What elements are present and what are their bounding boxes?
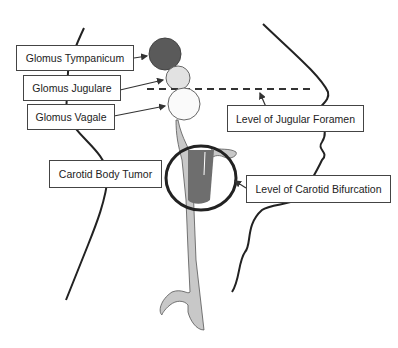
label-level-carotid-bifurcation: Level of Carotid Bifurcation [246,175,391,203]
label-glomus-vagale: Glomus Vagale [27,104,115,130]
diagram-canvas: Glomus Tympanicum Glomus Jugulare Glomus… [0,0,398,348]
glomus-jugulare-circle [166,66,190,90]
label-glomus-tympanicum: Glomus Tympanicum [16,45,134,71]
label-level-jugular-foramen: Level of Jugular Foramen [227,105,364,132]
label-carotid-body-tumor: Carotid Body Tumor [49,160,162,188]
carotid-body-tumor-mass [188,150,214,204]
glomus-tympanicum-circle [149,38,181,70]
label-glomus-jugulare: Glomus Jugulare [23,75,121,101]
glomus-vagale-circle [168,88,200,120]
right-contour-line [232,24,328,292]
